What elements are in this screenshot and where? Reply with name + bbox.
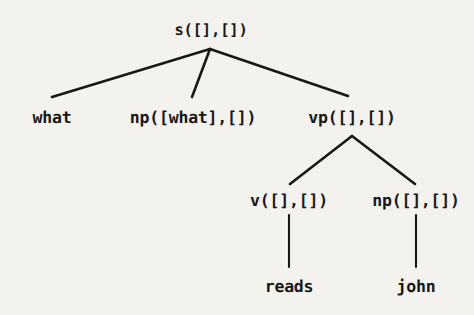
tree-edge bbox=[192, 49, 210, 97]
tree-node-s: s([],[]) bbox=[174, 21, 247, 39]
tree-leaf-john: john bbox=[397, 277, 436, 296]
tree-node-vp: vp([],[]) bbox=[308, 108, 396, 127]
tree-edge bbox=[52, 49, 210, 97]
tree-leaf-reads: reads bbox=[265, 277, 314, 296]
tree-edge bbox=[352, 136, 415, 184]
tree-edge bbox=[290, 136, 352, 184]
tree-node-np-what: np([what],[]) bbox=[130, 108, 257, 127]
parse-tree-figure: s([],[]) what np([what],[]) vp([],[]) v(… bbox=[0, 0, 474, 315]
tree-edge bbox=[210, 49, 348, 96]
tree-node-np: np([],[]) bbox=[372, 191, 460, 210]
tree-node-v: v([],[]) bbox=[250, 191, 328, 210]
tree-node-what: what bbox=[33, 108, 72, 127]
tree-edges-layer bbox=[0, 0, 474, 315]
